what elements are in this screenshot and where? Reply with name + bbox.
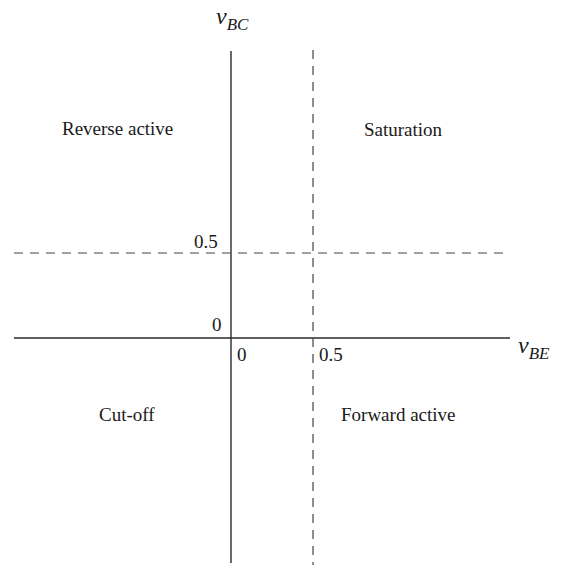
- y-axis-label: vBC: [216, 3, 249, 34]
- region-forward-active: Forward active: [341, 404, 455, 425]
- x-axis-label: vBE: [518, 332, 550, 363]
- y-tick-0: 0: [212, 314, 222, 335]
- x-tick-0: 0: [237, 344, 247, 365]
- x-tick-0.5: 0.5: [319, 344, 343, 365]
- y-tick-0.5: 0.5: [194, 231, 218, 252]
- x-axis-subscript: BE: [529, 344, 550, 363]
- x-axis-symbol: v: [518, 332, 529, 358]
- y-axis-subscript: BC: [227, 15, 249, 34]
- bjt-region-diagram: vBC vBE 0.5 0 0 0.5 Reverse active Satur…: [0, 0, 578, 579]
- region-saturation: Saturation: [364, 119, 443, 140]
- region-cut-off: Cut-off: [99, 404, 155, 425]
- y-axis-symbol: v: [216, 3, 227, 29]
- region-reverse-active: Reverse active: [62, 118, 173, 139]
